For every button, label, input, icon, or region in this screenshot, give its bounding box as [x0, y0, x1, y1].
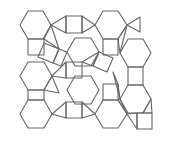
tiling-diagram [0, 0, 176, 144]
square-tile [128, 67, 143, 85]
triangle-tile [82, 52, 99, 66]
square-tile [28, 90, 44, 100]
triangle-tile [52, 62, 66, 78]
square-tile [103, 39, 118, 55]
triangle-tile [118, 99, 127, 114]
hexagon-tile [20, 100, 52, 128]
hexagon-tile [120, 39, 151, 67]
hexagon-tile [20, 62, 52, 90]
triangle-tile [143, 99, 152, 113]
hexagon-tile [67, 76, 99, 104]
tiling-svg [0, 0, 176, 144]
triangle-tile [113, 72, 120, 99]
square-tile [103, 84, 118, 100]
square-tile [38, 43, 59, 63]
square-tile [28, 39, 44, 55]
triangle-tile [52, 102, 66, 118]
hexagon-tile [95, 11, 127, 39]
triangle-tile [127, 17, 140, 32]
triangle-tile [127, 113, 137, 129]
triangle-tile [82, 16, 95, 33]
square-tile [66, 16, 82, 33]
square-tile [137, 113, 152, 129]
triangle-tile [44, 76, 59, 93]
